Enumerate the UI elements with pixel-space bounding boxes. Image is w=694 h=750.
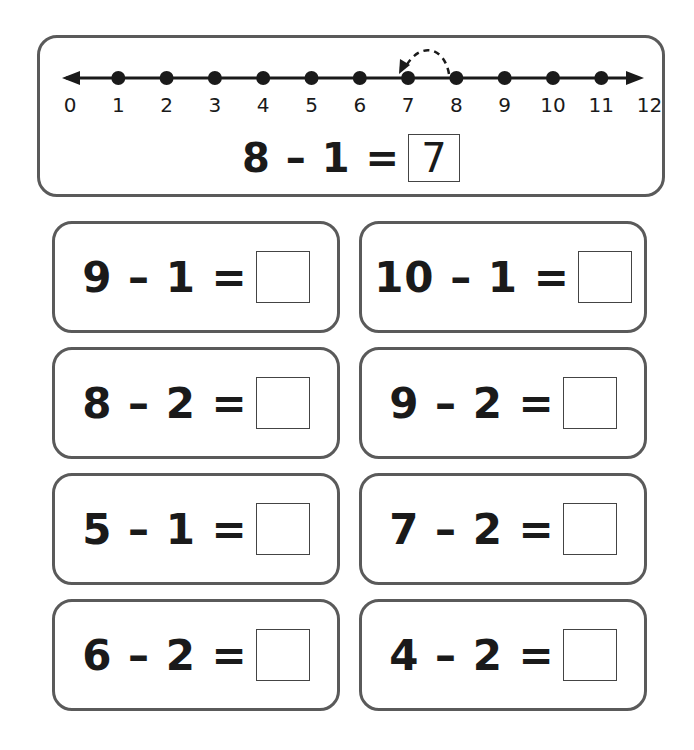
answer-box[interactable] [256, 377, 310, 429]
number-dot [305, 71, 319, 85]
problem-card: 4 – 2 = [359, 599, 647, 711]
problem-card: 6 – 2 = [52, 599, 340, 711]
answer-box[interactable] [578, 251, 632, 303]
number-dot [111, 71, 125, 85]
tick-label: 7 [402, 93, 415, 117]
number-dot [449, 71, 463, 85]
problem-card: 7 – 2 = [359, 473, 647, 585]
number-dot [256, 71, 270, 85]
answer-box[interactable] [563, 503, 617, 555]
number-line: 0123456789101112 [40, 38, 668, 138]
problem-equation: 10 – 1 = [374, 253, 570, 302]
problem-equation: 4 – 2 = [389, 631, 555, 680]
problem-equation: 7 – 2 = [389, 505, 555, 554]
tick-label: 3 [209, 93, 222, 117]
problem-equation: 5 – 1 = [82, 505, 248, 554]
number-dot [401, 71, 415, 85]
number-line-labels: 0123456789101112 [64, 93, 663, 117]
tick-label: 0 [64, 93, 77, 117]
tick-label: 12 [637, 93, 662, 117]
tick-label: 2 [160, 93, 173, 117]
problem-equation: 9 – 1 = [82, 253, 248, 302]
number-dot [498, 71, 512, 85]
tick-label: 10 [540, 93, 565, 117]
example-equation-text: 8 – 1 = [242, 135, 400, 181]
hop-arc-arrow-icon [406, 50, 449, 74]
answer-box[interactable] [256, 629, 310, 681]
problem-equation: 8 – 2 = [82, 379, 248, 428]
number-dot [160, 71, 174, 85]
problem-equation: 9 – 2 = [389, 379, 555, 428]
problem-card: 9 – 1 = [52, 221, 340, 333]
tick-label: 8 [450, 93, 463, 117]
example-equation: 8 – 1 = 7 [40, 134, 662, 182]
problem-card: 10 – 1 = [359, 221, 647, 333]
left-arrow-icon [62, 71, 80, 85]
answer-box[interactable] [256, 503, 310, 555]
tick-label: 5 [305, 93, 318, 117]
tick-label: 1 [112, 93, 125, 117]
number-dot [353, 71, 367, 85]
right-arrow-icon [626, 71, 644, 85]
tick-label: 9 [498, 93, 511, 117]
tick-label: 6 [353, 93, 366, 117]
problem-card: 5 – 1 = [52, 473, 340, 585]
example-panel: 0123456789101112 8 – 1 = 7 [37, 35, 665, 197]
tick-label: 4 [257, 93, 270, 117]
problem-card: 9 – 2 = [359, 347, 647, 459]
answer-box[interactable] [563, 629, 617, 681]
number-dot [208, 71, 222, 85]
number-dot [546, 71, 560, 85]
answer-box[interactable] [256, 251, 310, 303]
problem-card: 8 – 2 = [52, 347, 340, 459]
example-answer-box: 7 [408, 134, 460, 182]
answer-box[interactable] [563, 377, 617, 429]
number-dot [594, 71, 608, 85]
tick-label: 11 [589, 93, 614, 117]
problem-equation: 6 – 2 = [82, 631, 248, 680]
